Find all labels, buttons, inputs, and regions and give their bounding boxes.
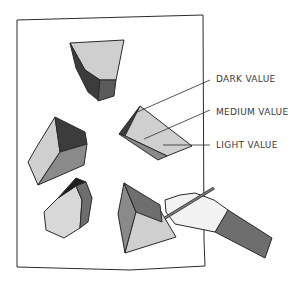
label-dark-value: DARK VALUE — [216, 74, 276, 84]
label-light-value: LIGHT VALUE — [216, 140, 278, 150]
label-medium-value: MEDIUM VALUE — [216, 107, 288, 117]
